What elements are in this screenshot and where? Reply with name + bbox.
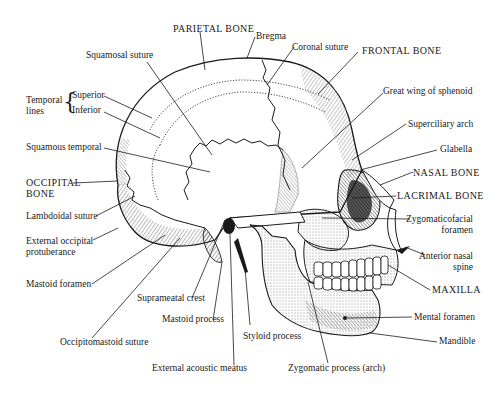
label-temporal-lines-2: lines (26, 106, 44, 117)
label-inferior: Inferior (72, 105, 101, 116)
label-great-wing-of-sphenoid: Great wing of sphenoid (383, 86, 472, 97)
label-zygomatic-process-arch: Zygomatic process (arch) (288, 363, 385, 374)
label-anterior-nasal-spine-2: spine (400, 262, 473, 273)
label-glabella: Glabella (440, 144, 472, 155)
leader-external-acoustic-meatus (230, 234, 234, 365)
label-mastoid-process: Mastoid process (162, 314, 224, 325)
label-mental-foramen: Mental foramen (414, 312, 475, 323)
label-mandible: Mandible (439, 336, 475, 347)
label-suprameatal-crest: Suprameatal crest (137, 293, 205, 304)
label-external-acoustic-meatus: External acoustic meatus (152, 363, 247, 374)
leader-styloid-process (245, 268, 250, 325)
leader-ext-occipital-protuberance (93, 228, 118, 240)
skull-diagram: PARIETAL BONE Bregma Coronal suture FRON… (0, 0, 499, 395)
mental-foramen-hole (343, 316, 347, 320)
label-lacrimal-bone: LACRIMAL BONE (397, 190, 484, 201)
label-zygomaticofacial-foramen-2: foramen (400, 225, 473, 236)
label-nasal-bone: NASAL BONE (413, 167, 480, 178)
label-squamosal-suture: Squamosal suture (86, 50, 153, 61)
label-bregma: Bregma (256, 31, 286, 42)
label-occipital-bone-2: BONE (26, 188, 55, 199)
label-mastoid-foramen: Mastoid foramen (26, 279, 91, 290)
leader-nasal-bone (380, 172, 413, 185)
leader-mandible (370, 333, 437, 342)
label-superciliary-arch: Superciliary arch (408, 119, 473, 130)
label-zygomaticofacial-foramen-1: Zygomaticofacial (400, 214, 473, 225)
label-anterior-nasal-spine-1: Anterior nasal (400, 251, 473, 262)
label-frontal-bone: FRONTAL BONE (362, 45, 441, 56)
label-squamous-temporal: Squamous temporal (26, 142, 102, 153)
label-occipital-bone-1: OCCIPITAL (26, 177, 81, 188)
label-occipitomastoid-suture: Occipitomastoid suture (60, 337, 148, 348)
leader-frontal-bone (318, 52, 358, 94)
label-lambdoidal-suture: Lambdoidal suture (26, 211, 98, 222)
styloid-process-shape (234, 238, 248, 273)
label-parietal-bone: PARIETAL BONE (173, 23, 254, 34)
leader-bregma (247, 37, 255, 58)
label-maxilla: MAXILLA (432, 284, 481, 295)
leader-mastoid-process (213, 262, 222, 320)
label-external-occipital-protuberance-1: External occipital (26, 236, 93, 247)
label-superior: Superior (72, 90, 105, 101)
leader-superciliary-arch (352, 124, 406, 160)
leader-mastoid-foramen (92, 235, 165, 284)
label-styloid-process: Styloid process (243, 331, 301, 342)
label-temporal-lines-1: Temporal (26, 95, 62, 106)
label-coronal-suture: Coronal suture (292, 42, 348, 53)
label-external-occipital-protuberance-2: protuberance (26, 247, 76, 258)
